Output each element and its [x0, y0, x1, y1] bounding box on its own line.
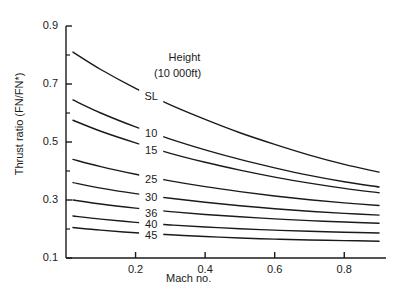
y-tick-label: 0.5: [30, 135, 58, 147]
curve-label-sl: SL: [135, 90, 167, 102]
x-tick-label: 0.4: [191, 263, 219, 275]
axes: [66, 26, 386, 258]
plot-canvas: [0, 0, 406, 295]
curve-40: [73, 216, 379, 233]
curve-10: [73, 100, 379, 187]
legend-subtitle: (10 000ft): [146, 67, 210, 79]
thrust-ratio-chart: Thrust ratio (FN/FN*) Mach no. 0.10.30.5…: [0, 0, 406, 295]
x-tick-label: 0.8: [330, 263, 358, 275]
y-axis-major-ticks: [66, 26, 72, 258]
curve-label-25: 25: [135, 173, 167, 185]
y-tick-label: 0.7: [30, 77, 58, 89]
curve-45: [73, 228, 379, 242]
curve-label-30: 30: [135, 191, 167, 203]
curve-label-45: 45: [135, 229, 167, 241]
y-tick-label: 0.9: [30, 19, 58, 31]
curve-label-10: 10: [135, 127, 167, 139]
curve-25: [73, 159, 379, 205]
curve-15: [73, 120, 379, 193]
legend-title: Height: [153, 51, 217, 63]
y-tick-label: 0.3: [30, 193, 58, 205]
curve-label-36: 36: [135, 207, 167, 219]
x-tick-label: 0.6: [261, 263, 289, 275]
x-tick-label: 0.2: [122, 263, 150, 275]
data-curves: [73, 52, 379, 245]
x-axis-major-ticks: [136, 252, 345, 258]
y-tick-label: 0.1: [30, 251, 58, 263]
curve-36: [73, 200, 379, 223]
curve-sl: [73, 52, 379, 172]
curve-label-15: 15: [135, 144, 167, 156]
y-axis-title: Thrust ratio (FN/FN*): [13, 69, 25, 179]
